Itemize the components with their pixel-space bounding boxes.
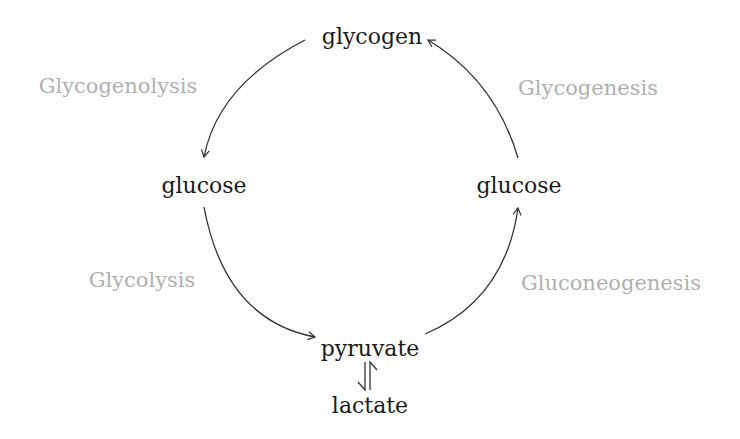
arrow-glycolysis <box>204 207 315 337</box>
label-glycogenesis: Glycogenesis <box>518 78 658 99</box>
equilibrium-arrows-icon <box>358 362 377 390</box>
arrow-gluconeogenesis <box>425 208 518 334</box>
node-glucose-right: glucose <box>476 175 561 197</box>
arrow-glycogenesis <box>428 40 518 158</box>
node-lactate: lactate <box>332 395 408 417</box>
label-glycogenolysis: Glycogenolysis <box>39 76 198 97</box>
arrow-glycogenolysis <box>204 40 305 157</box>
cycle-arrows <box>0 0 740 439</box>
node-pyruvate: pyruvate <box>321 338 420 360</box>
label-glycolysis: Glycolysis <box>89 270 196 291</box>
node-glycogen: glycogen <box>322 26 422 48</box>
node-glucose-left: glucose <box>161 175 246 197</box>
label-gluconeogenesis: Gluconeogenesis <box>521 273 701 294</box>
